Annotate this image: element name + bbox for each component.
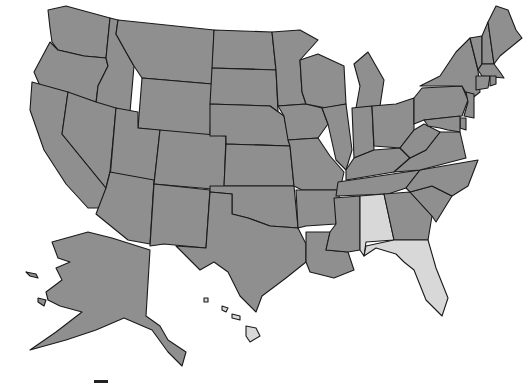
hawaii-island-maui: Hawaii [232,314,240,320]
us-map: Washington Oregon California Idaho Nevad… [0,0,530,386]
state-michigan[interactable]: Michigan [354,52,384,108]
state-colorado[interactable]: Colorado [154,130,226,190]
state-indiana[interactable]: Indiana [352,106,374,158]
hawaii-island-oahu: Hawaii [222,306,228,312]
state-north-dakota[interactable]: North Dakota [212,30,276,70]
state-arkansas[interactable]: Arkansas [296,190,340,228]
alaska-island-1: Alaska [26,272,38,278]
state-alaska[interactable]: Alaska [30,232,186,366]
alaska-island-2: Alaska [38,298,46,306]
state-wisconsin[interactable]: Wisconsin [300,54,346,108]
state-hawaii[interactable]: Hawaii [246,326,260,342]
state-florida[interactable]: Florida [364,240,448,316]
state-new-mexico[interactable]: New Mexico [150,184,210,248]
state-wyoming[interactable]: Wyoming [138,78,212,136]
hawaii-island-kauai: Hawaii [204,298,208,302]
state-connecticut[interactable]: Connecticut [476,76,490,90]
state-delaware[interactable]: Delaware [460,118,466,130]
state-maine[interactable]: Maine [488,6,522,64]
legend-mark [94,380,108,383]
state-rhode-island[interactable]: Rhode Island [490,76,496,86]
state-kansas[interactable]: Kansas [224,144,294,186]
